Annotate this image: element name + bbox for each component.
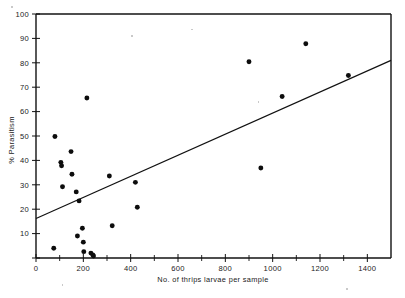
y-tick-label: 70 — [20, 83, 29, 92]
data-point — [77, 198, 82, 203]
plot-frame — [36, 14, 391, 258]
data-point — [84, 95, 89, 100]
data-point — [51, 246, 56, 251]
x-axis-title: No. of thrips larvae per sample — [157, 275, 269, 284]
y-axis-title: % Parasitism — [7, 116, 16, 163]
data-point — [280, 94, 285, 99]
data-point — [247, 59, 252, 64]
data-points — [51, 41, 351, 258]
x-tick-label: 600 — [171, 264, 185, 273]
y-tick-label: 20 — [20, 205, 29, 214]
data-point — [258, 166, 263, 171]
data-point — [91, 254, 96, 259]
data-point — [59, 163, 64, 168]
regression-line-path — [36, 60, 391, 218]
data-point — [52, 134, 57, 139]
y-tick-label: 90 — [20, 34, 29, 43]
y-tick-label: 80 — [20, 59, 29, 68]
y-axis-tick-labels: 102030405060708090100 — [15, 10, 29, 239]
data-point — [303, 41, 308, 46]
data-point — [70, 172, 75, 177]
scatter-plot-figure: 102030405060708090100 020040060080010001… — [0, 0, 405, 298]
plot-canvas: 102030405060708090100 020040060080010001… — [0, 0, 405, 298]
x-tick-label: 1400 — [358, 264, 376, 273]
data-point — [135, 205, 140, 210]
x-tick-label: 200 — [77, 264, 91, 273]
y-tick-label: 60 — [20, 107, 29, 116]
data-point — [346, 73, 351, 78]
y-tick-label: 10 — [20, 229, 29, 238]
x-tick-label: 800 — [219, 264, 233, 273]
y-tick-label: 40 — [20, 156, 29, 165]
y-tick-label: 50 — [20, 132, 29, 141]
data-point — [81, 240, 86, 245]
y-tick-label: 100 — [15, 10, 29, 19]
x-tick-label: 400 — [124, 264, 138, 273]
paper-specks — [11, 6, 348, 290]
data-point — [110, 223, 115, 228]
data-point — [133, 180, 138, 185]
data-point — [81, 249, 86, 254]
data-point — [75, 234, 80, 239]
data-point — [69, 149, 74, 154]
x-tick-label: 1200 — [311, 264, 329, 273]
data-point — [60, 184, 65, 189]
x-axis-tick-labels: 0200400600800100012001400 — [34, 264, 377, 273]
y-tick-label: 30 — [20, 181, 29, 190]
x-tick-label: 0 — [34, 264, 39, 273]
data-point — [74, 189, 79, 194]
x-tick-label: 1000 — [264, 264, 282, 273]
data-point — [80, 226, 85, 231]
data-point — [107, 174, 112, 179]
regression-line — [36, 60, 391, 218]
